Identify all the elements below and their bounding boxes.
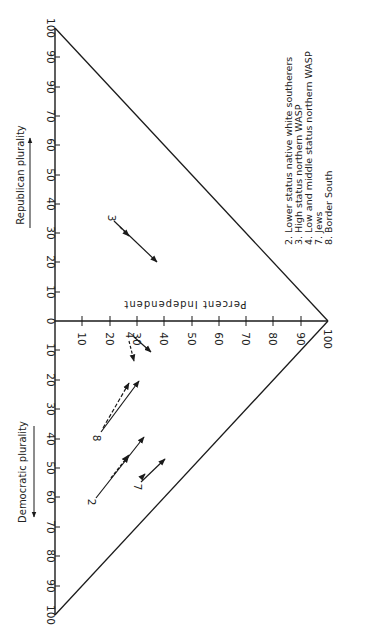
dem-tick-90: 90	[45, 579, 57, 592]
rep-tick-40: 40	[45, 197, 57, 210]
ind-tick-100: 100	[322, 329, 334, 349]
legend-item-8: 8. Border South	[323, 170, 334, 245]
label-group-3: 3	[106, 215, 118, 222]
rep-tick-10: 10	[45, 285, 57, 298]
tick-zero: 0	[45, 318, 57, 325]
dem-tick-50: 50	[45, 461, 57, 474]
label-group-8: 8	[91, 435, 103, 442]
ind-tick-80: 80	[267, 332, 279, 345]
ind-tick-70: 70	[240, 332, 252, 345]
rep-tick-30: 30	[45, 226, 57, 239]
legend: 2. Lower status native white southerers …	[283, 51, 334, 245]
series-group-3: 3	[106, 215, 157, 262]
ind-tick-50: 50	[186, 332, 198, 345]
dem-tick-80: 80	[45, 549, 57, 562]
democratic-plurality-title: Democratic plurality	[17, 421, 28, 523]
rep-tick-100: 100	[45, 18, 57, 38]
rep-tick-20: 20	[45, 255, 57, 268]
label-group-7: 7	[132, 484, 144, 491]
label-group-4: 4	[124, 332, 136, 339]
label-group-2: 2	[86, 499, 98, 506]
series-group-2: 2	[86, 437, 144, 505]
ind-tick-40: 40	[158, 332, 170, 345]
dem-tick-10: 10	[45, 343, 57, 356]
democratic-ticks: 10 20 30 40 50 60 70 80 90 100	[45, 343, 60, 625]
percent-independent-title: Percent Independent	[123, 299, 246, 310]
rep-tick-80: 90	[45, 80, 57, 93]
triangle-edge-democratic	[55, 321, 328, 615]
dem-tick-100: 100	[45, 605, 57, 625]
rep-tick-70: 70	[45, 109, 57, 122]
dem-tick-70: 70	[45, 520, 57, 533]
dem-tick-20: 20	[45, 373, 57, 386]
republican-plurality-title: Republican plurality	[15, 125, 26, 225]
dem-tick-60: 60	[45, 490, 57, 503]
ind-tick-60: 60	[213, 332, 225, 345]
ind-tick-90: 90	[295, 332, 307, 345]
triangular-arrow-chart: 100 90 90 70 60 50 40 30 20 10 0 10 20 3…	[0, 0, 372, 637]
republican-ticks: 100 90 90 70 60 50 40 30 20 10 0	[45, 18, 60, 324]
rep-tick-90: 90	[45, 50, 57, 63]
rep-tick-60: 60	[45, 138, 57, 151]
ind-tick-10: 10	[76, 332, 88, 345]
dem-tick-30: 30	[45, 402, 57, 415]
ind-tick-20: 20	[104, 332, 116, 345]
rep-tick-50: 50	[45, 168, 57, 181]
series-group-7: 7	[132, 459, 165, 490]
dem-tick-40: 40	[45, 432, 57, 445]
series-group-8: 8	[91, 381, 139, 441]
